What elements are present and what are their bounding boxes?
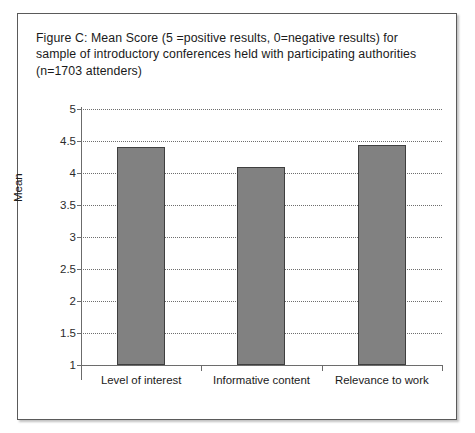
x-axis-tick-label: Informative content xyxy=(213,374,310,386)
gridline xyxy=(81,365,442,366)
y-axis-tick-label: 3 xyxy=(70,231,76,243)
x-axis-tickmark xyxy=(442,365,443,371)
y-axis-tick-label: 4.5 xyxy=(60,135,76,147)
y-axis-tick-label: 2.5 xyxy=(60,263,76,275)
y-axis-tick-label: 4 xyxy=(70,167,76,179)
y-axis-tick-labels: 54.543.532.521.51 xyxy=(36,109,76,365)
figure-caption: Figure C: Mean Score (5 =positive result… xyxy=(36,30,436,79)
x-axis-tickmark xyxy=(322,365,323,371)
bar[interactable] xyxy=(237,167,285,365)
y-axis-title: Mean xyxy=(12,173,24,202)
bar-slot xyxy=(81,109,201,365)
bar[interactable] xyxy=(358,145,406,365)
figure-frame: Figure C: Mean Score (5 =positive result… xyxy=(17,13,457,420)
x-axis-tick-label: Relevance to work xyxy=(335,374,429,386)
bar-slot xyxy=(201,109,321,365)
y-axis-tick-label: 3.5 xyxy=(60,199,76,211)
plot-area xyxy=(81,109,442,365)
x-axis-tickmark xyxy=(81,365,82,371)
y-axis-tick-label: 1 xyxy=(70,359,76,371)
bar[interactable] xyxy=(117,147,165,365)
x-axis-tick-label: Level of interest xyxy=(101,374,181,386)
y-axis-tick-label: 5 xyxy=(70,103,76,115)
x-axis-tickmark xyxy=(201,365,202,371)
bar-slot xyxy=(322,109,442,365)
y-axis-tick-label: 2 xyxy=(70,295,76,307)
y-axis-tick-label: 1.5 xyxy=(60,327,76,339)
